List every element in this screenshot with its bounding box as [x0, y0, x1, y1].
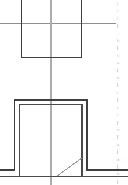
drawing-viewport[interactable]: | i l | - h | s = l e | r | t i | n | a …	[0, 0, 128, 185]
cad-drawing-canvas[interactable]	[0, 0, 128, 185]
